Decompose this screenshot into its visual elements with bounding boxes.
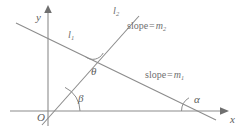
slope-m2-symbol: m (156, 20, 163, 31)
line-1-label: l1 (68, 30, 74, 41)
line-1-label-subscript: 1 (71, 34, 74, 41)
line-1-stroke (16, 23, 216, 120)
y-axis (44, 5, 52, 126)
slope-m2-prefix: slope (127, 20, 148, 31)
slope-m1-symbol: m (174, 69, 181, 80)
line-2-label: l2 (113, 6, 119, 17)
slope-m1-equals: = (167, 69, 173, 80)
geometry-figure: y x O l1 l2 slope=m2 slope=m1 θ β α (0, 0, 250, 136)
slope-m1-prefix: slope (145, 69, 166, 80)
angle-alpha-label: α (194, 94, 200, 105)
slope-m2-label: slope=m2 (127, 21, 166, 32)
slope-m1-subscript: 1 (181, 74, 184, 81)
x-axis-label: x (230, 114, 235, 125)
origin-label: O (37, 112, 45, 123)
angle-beta-label: β (78, 93, 83, 104)
angle-theta-label: θ (91, 66, 96, 77)
angle-alpha-arc (182, 98, 190, 111)
y-axis-label: y (36, 12, 41, 23)
slope-m1-label: slope=m1 (145, 70, 184, 81)
slope-m2-equals: = (149, 20, 155, 31)
line-2-label-subscript: 2 (116, 10, 119, 17)
slope-m2-subscript: 2 (163, 25, 166, 32)
